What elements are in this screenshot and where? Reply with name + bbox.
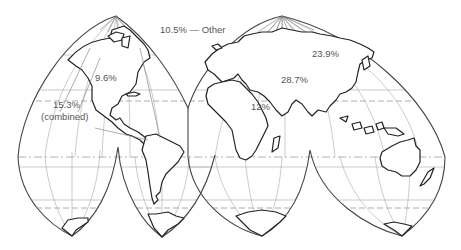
label-europe-middle-east: 28.7% <box>281 74 308 85</box>
label-other: 10.5% — Other <box>160 24 225 35</box>
landmass-australia <box>380 138 434 186</box>
world-map: 10.5% — Other 9.6% 15.3% (combined) 23.9… <box>0 0 461 250</box>
label-north-america: 9.6% <box>95 72 117 83</box>
label-asia: 23.9% <box>312 48 339 59</box>
label-combined-note: (combined) <box>41 111 89 122</box>
landmass-southeast-asia-islands <box>340 116 404 136</box>
landmass-antarctica <box>62 210 412 237</box>
label-combined-value: 15.3% <box>53 99 80 110</box>
landmass-south-america <box>142 134 184 204</box>
label-africa: 12% <box>251 101 271 112</box>
landmass-north-america <box>68 26 150 146</box>
